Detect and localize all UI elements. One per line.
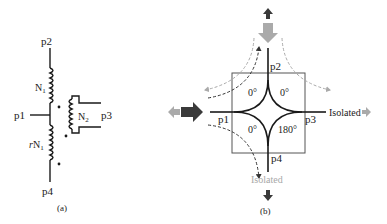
isolated-bottom-label: Isolated: [251, 174, 283, 185]
polarity-dots: [58, 106, 68, 166]
upper-winding: [50, 68, 53, 103]
phase-bottom-right: 180°: [278, 124, 297, 135]
port-p4-label: p4: [42, 185, 54, 197]
port-p3-label-b: p3: [305, 113, 317, 125]
output-arrow-bottom: [263, 190, 273, 201]
winding-rn1-label: rN1: [29, 139, 44, 152]
reflected-arrow-left: [168, 106, 180, 118]
input-arrow-p1: [181, 102, 203, 122]
port-p2-label: p2: [41, 35, 52, 47]
port-p4-label-b: p4: [271, 152, 283, 164]
phase-top-left: 0°: [248, 87, 257, 98]
phase-top-right: 0°: [280, 87, 289, 98]
phase-bottom-left: 0°: [248, 124, 257, 135]
port-p1-label: p1: [14, 109, 25, 121]
diagram-canvas: p2 p1 p3 p4 N1 rN1 N2 (a) p2 p1 p3 p4 0°…: [0, 0, 387, 224]
coupler-arcs: [210, 48, 326, 172]
lower-winding: [50, 125, 53, 160]
caption-b: (b): [260, 206, 271, 216]
input-arrow-p2: [258, 23, 278, 43]
caption-a: (a): [57, 203, 67, 213]
output-arrow-top: [263, 8, 273, 19]
transformer-schematic: [30, 48, 101, 182]
secondary-winding: [69, 99, 72, 129]
port-p1-label-b: p1: [218, 113, 229, 125]
output-arrow-right: [362, 107, 371, 117]
isolated-right-label: Isolated: [329, 107, 361, 118]
winding-n1-label: N1: [35, 82, 46, 95]
port-p3-label: p3: [101, 109, 113, 121]
winding-n2-label: N2: [78, 111, 89, 124]
port-p2-label-b: p2: [270, 60, 281, 72]
